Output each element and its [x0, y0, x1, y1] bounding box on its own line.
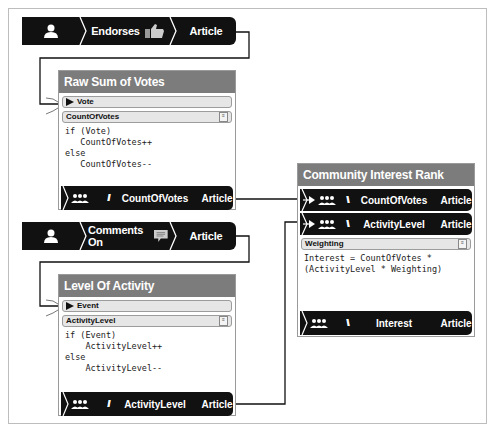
input-label: Vote [77, 97, 94, 106]
group-icon [316, 189, 338, 211]
output-bar[interactable]: \\\ Interest Article [300, 311, 472, 335]
output-object: Article [199, 186, 235, 210]
person-icon [22, 17, 80, 45]
output-object: Article [199, 392, 235, 416]
code-block: if (Vote) CountOfVotes++ else CountOfVot… [65, 126, 235, 170]
thumbs-up-icon [145, 24, 165, 38]
stream-icon: \\\ [340, 311, 354, 335]
stream-icon: /// [101, 392, 115, 416]
input-bar-countofvotes[interactable]: \\\ CountOfVotes Article [300, 189, 472, 211]
output-label: CountOfVotes [117, 186, 193, 210]
input-object: Article [438, 213, 474, 235]
edit-icon[interactable]: ≡ [219, 112, 228, 122]
input-slot-vote[interactable]: Vote [62, 96, 232, 108]
input-label: CountOfVotes [356, 189, 432, 211]
input-label: ActivityLevel [356, 213, 432, 235]
variable-slot[interactable]: ActivityLevel≡ [62, 315, 232, 327]
node-title: Community Interest Rank [298, 164, 474, 186]
output-bar[interactable]: /// ActivityLevel Article [61, 392, 233, 416]
node-raw-sum-of-votes[interactable]: Raw Sum of Votes Vote CountOfVotes≡ if (… [58, 70, 236, 210]
variable-label: CountOfVotes [66, 112, 119, 121]
chevron-divider [168, 17, 178, 45]
input-label: Event [77, 301, 99, 310]
node-title: Level Of Activity [59, 275, 235, 297]
verb-label: Endorses [91, 25, 140, 37]
stream-icon: /// [101, 186, 115, 210]
chevron-divider [78, 222, 88, 250]
chevron-divider [78, 17, 88, 45]
variable-label: ActivityLevel [66, 316, 115, 325]
object-label: Article [178, 222, 234, 250]
edit-icon[interactable]: ≡ [458, 239, 467, 249]
code-block: Interest = CountOfVotes * (ActivityLevel… [304, 253, 474, 275]
node-community-interest-rank[interactable]: Community Interest Rank \\\ CountOfVotes… [297, 163, 475, 337]
group-icon [61, 392, 99, 416]
chevron-divider [168, 222, 178, 250]
input-bar-activitylevel[interactable]: \\\ ActivityLevel Article [300, 213, 472, 235]
stream-icon: \\\ [340, 189, 354, 211]
output-object: Article [438, 311, 474, 335]
verb-label: Comments On [88, 224, 150, 248]
event-bar-endorses[interactable]: Endorses Article [22, 17, 236, 45]
output-label: ActivityLevel [117, 392, 193, 416]
group-icon [61, 186, 99, 210]
node-title: Raw Sum of Votes [59, 71, 235, 93]
object-label: Article [178, 17, 234, 45]
input-arrow-icon [66, 98, 74, 106]
variable-slot[interactable]: Weighting≡ [301, 238, 471, 250]
group-icon [316, 213, 338, 235]
input-arrow-icon [66, 302, 74, 310]
output-bar[interactable]: /// CountOfVotes Article [61, 186, 233, 210]
output-label: Interest [356, 311, 432, 335]
input-arrow-icon [302, 189, 316, 211]
edit-icon[interactable]: ≡ [219, 316, 228, 326]
code-block: if (Event) ActivityLevel++ else Activity… [65, 330, 235, 374]
input-slot-event[interactable]: Event [62, 300, 232, 312]
variable-slot[interactable]: CountOfVotes≡ [62, 111, 232, 123]
group-icon [300, 311, 338, 335]
event-bar-comments-on[interactable]: Comments On Article [22, 222, 236, 250]
node-level-of-activity[interactable]: Level Of Activity Event ActivityLevel≡ i… [58, 274, 236, 416]
variable-label: Weighting [305, 239, 344, 248]
input-object: Article [438, 189, 474, 211]
input-arrow-icon [302, 213, 316, 235]
speech-bubble-icon [154, 229, 168, 243]
stream-icon: \\\ [340, 213, 354, 235]
person-icon [22, 222, 80, 250]
